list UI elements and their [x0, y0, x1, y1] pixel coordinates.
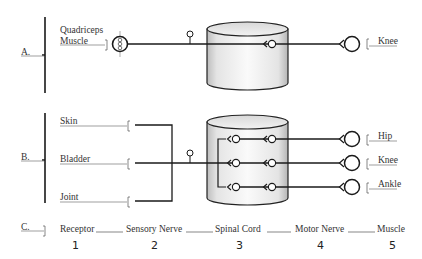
spinal-cord-cylinder-b: [207, 115, 288, 205]
panel-a-bracket: [42, 17, 45, 93]
panel-b-label: B.: [21, 153, 30, 163]
panel-c-label: C.: [21, 223, 30, 233]
stage-spinal-cord: Spinal Cord: [215, 225, 261, 235]
effector-tick-a: [367, 39, 369, 49]
stage-number-5: 5: [389, 240, 396, 251]
receptor-label-bladder: Bladder: [60, 155, 90, 165]
stage-sensory-nerve: Sensory Nerve: [126, 225, 182, 235]
ganglion-icon-a: [187, 31, 193, 44]
receptor-tick: [105, 40, 107, 50]
spinal-cord-cylinder-a: [207, 22, 288, 90]
effector-label-knee-a: Knee: [378, 37, 398, 47]
effector-label-hip: Hip: [378, 132, 392, 142]
stage-number-4: 4: [317, 240, 324, 251]
knee-tick: [367, 159, 369, 169]
effector-muscle-icon-hip: [340, 132, 360, 147]
receptor-label-quadriceps: Quadriceps: [60, 26, 103, 36]
ganglion-icon-b: [187, 150, 193, 163]
skin-tick: [128, 121, 130, 131]
effector-muscle-icon-knee: [340, 156, 360, 171]
reflex-arc-diagram: A. Quadriceps Muscle Knee B. Skin Bladde…: [0, 0, 422, 259]
stage-motor-nerve: Motor Nerve: [295, 225, 344, 235]
receptor-label-muscle: Muscle: [60, 37, 88, 47]
muscle-spindle-receptor-icon: [113, 31, 128, 57]
bladder-tick: [128, 159, 130, 169]
effector-label-ankle: Ankle: [378, 180, 401, 190]
hip-tick: [367, 135, 369, 145]
effector-muscle-icon-a: [340, 37, 360, 52]
stage-muscle: Muscle: [377, 225, 405, 235]
stage-number-3: 3: [236, 240, 243, 251]
stage-receptor: Receptor: [60, 225, 94, 235]
panel-b-bracket: [42, 113, 45, 203]
effector-label-knee-b: Knee: [378, 156, 398, 166]
panel-a-label: A.: [21, 48, 30, 58]
ankle-tick: [367, 183, 369, 193]
stage-number-2: 2: [151, 240, 158, 251]
stage-number-1: 1: [72, 240, 79, 251]
receptor-label-joint: Joint: [60, 193, 78, 203]
joint-tick: [128, 197, 130, 207]
receptor-label-skin: Skin: [60, 117, 77, 127]
effector-muscle-icon-ankle: [340, 180, 360, 195]
